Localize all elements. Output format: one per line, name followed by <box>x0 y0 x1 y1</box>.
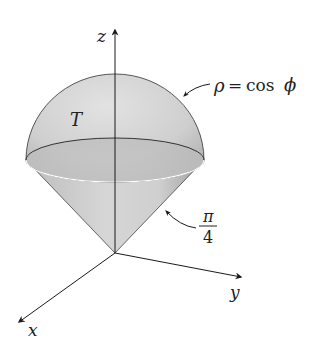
y-axis-label: y <box>229 282 240 302</box>
x-axis-label: x <box>28 320 38 340</box>
cone-angle-label: π 4 <box>199 207 217 247</box>
figure-svg: z y x T ρ = cos ϕ π 4 <box>0 0 312 346</box>
phi-symbol: ϕ <box>284 74 296 95</box>
diagram-canvas: z y x T ρ = cos ϕ π 4 <box>0 0 312 346</box>
sphere-leader-arrow <box>184 84 210 96</box>
sphere-equation-label: ρ = cos ϕ <box>213 74 296 96</box>
cone-leader-arrow <box>166 211 196 228</box>
cos-text: cos <box>246 75 274 95</box>
equals-sign: = <box>228 75 242 95</box>
x-axis <box>19 253 115 322</box>
y-axis <box>115 253 241 277</box>
denominator-4: 4 <box>203 228 213 247</box>
z-axis-label: z <box>96 26 107 46</box>
rho-symbol: ρ <box>213 75 225 96</box>
region-label: T <box>70 109 84 130</box>
pi-numerator: π <box>202 207 214 226</box>
